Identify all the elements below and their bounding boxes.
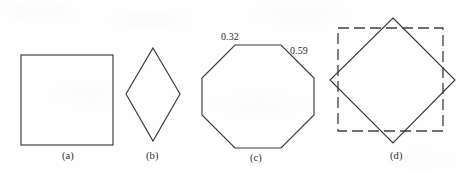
octagon-edge-label-upper-right: 0.59 — [290, 45, 308, 56]
shape-octagon-c — [202, 45, 314, 148]
shapes-canvas — [0, 0, 474, 171]
shape-square-a — [21, 55, 113, 145]
octagon-edge-label-upper-left: 0.32 — [221, 31, 239, 42]
caption-panel-d: (d) — [390, 150, 403, 161]
caption-panel-a: (a) — [62, 150, 74, 161]
shape-dashed-square-d — [338, 28, 443, 131]
caption-panel-b: (b) — [146, 150, 159, 161]
figure-container: 0.32 0.59 (a) (b) (c) (d) — [0, 0, 474, 171]
caption-panel-c: (c) — [250, 152, 262, 163]
shape-diamond-d — [330, 18, 455, 143]
shape-rhombus-b — [126, 48, 180, 141]
